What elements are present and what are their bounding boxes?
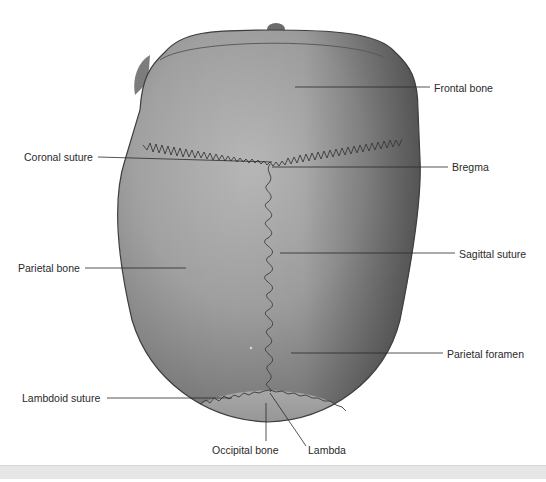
label-lambdoid-suture: Lambdoid suture: [22, 392, 100, 404]
label-sagittal-suture: Sagittal suture: [459, 248, 526, 260]
parietal-foramen-dot: [250, 347, 252, 349]
label-occipital-bone: Occipital bone: [212, 444, 279, 456]
label-bregma: Bregma: [452, 161, 489, 173]
label-parietal-bone: Parietal bone: [18, 262, 80, 274]
label-frontal-bone: Frontal bone: [434, 82, 493, 94]
label-coronal-suture: Coronal suture: [24, 151, 93, 163]
label-lambda: Lambda: [308, 444, 346, 456]
caption-strip: [0, 465, 546, 479]
label-parietal-foramen: Parietal foramen: [447, 348, 524, 360]
